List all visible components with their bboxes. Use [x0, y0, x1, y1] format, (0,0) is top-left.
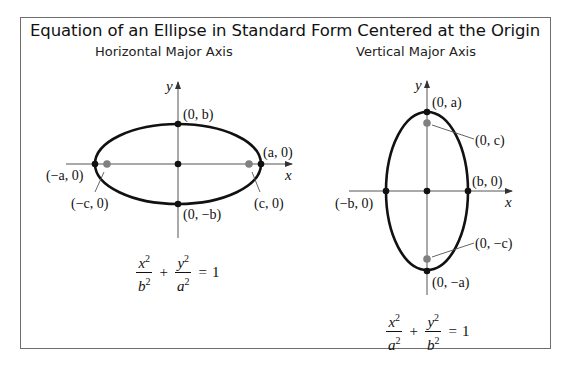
right-vertex-point: [465, 188, 472, 195]
horizontal-ellipse-equation: x2 b2 + y2 a2 = 1: [134, 250, 219, 295]
label-right-vertex: (b, 0): [472, 174, 503, 190]
right-vertex-point: [258, 161, 265, 168]
label-bottom-vertex: (0, −b): [183, 207, 222, 223]
label-right-vertex: (a, 0): [263, 145, 293, 161]
x-axis-label: x: [504, 194, 512, 210]
plus-sign: +: [160, 264, 168, 281]
label-bottom-vertex: (0, −a): [432, 275, 470, 291]
left-vertex-point: [383, 188, 390, 195]
top-vertex-point: [424, 109, 431, 116]
equation-rhs: 1: [212, 264, 220, 281]
fraction-term-2: y2 a2: [175, 250, 192, 295]
fraction-term-1: x2 b2: [136, 250, 153, 295]
bottom-focus-leader: [432, 243, 474, 257]
bottom-vertex-point: [175, 201, 182, 208]
left-vertex-point: [92, 161, 99, 168]
center-point: [424, 188, 431, 195]
label-left-vertex: (−a, 0): [46, 168, 84, 184]
y-axis-label: y: [164, 78, 173, 94]
top-vertex-point: [175, 121, 182, 128]
horizontal-ellipse-graph: y x (0, b) (0, −b) (a, 0) (−a, 0) (−c, 0…: [46, 78, 293, 238]
center-point: [175, 161, 182, 168]
equals-sign: =: [448, 323, 456, 340]
label-top-vertex: (0, a): [432, 95, 462, 111]
label-right-focus: (c, 0): [254, 196, 284, 212]
bottom-focus-point: [423, 255, 431, 263]
fraction-term-1: x2 a2: [386, 309, 403, 354]
label-top-vertex: (0, b): [183, 107, 214, 123]
label-top-focus: (0, c): [475, 133, 505, 149]
plus-sign: +: [410, 323, 418, 340]
fraction-term-2: y2 b2: [425, 309, 442, 354]
vertical-ellipse-equation: x2 a2 + y2 b2 = 1: [384, 309, 469, 354]
y-axis-label: y: [413, 77, 422, 93]
equation-rhs: 1: [462, 323, 470, 340]
left-focus-point: [103, 160, 111, 168]
vertical-ellipse-graph: y x (0, a) (0, −a) (b, 0) (−b, 0) (0, c)…: [335, 77, 513, 295]
label-bottom-focus: (0, −c): [475, 236, 513, 252]
top-focus-leader: [432, 125, 474, 139]
label-left-focus: (−c, 0): [71, 196, 109, 212]
x-axis-label: x: [284, 167, 292, 183]
ellipse-diagrams: y x (0, b) (0, −b) (a, 0) (−a, 0) (−c, 0…: [0, 0, 574, 372]
bottom-vertex-point: [424, 268, 431, 275]
label-left-vertex: (−b, 0): [335, 196, 374, 212]
equals-sign: =: [198, 264, 206, 281]
right-focus-point: [245, 160, 253, 168]
top-focus-point: [423, 119, 431, 127]
